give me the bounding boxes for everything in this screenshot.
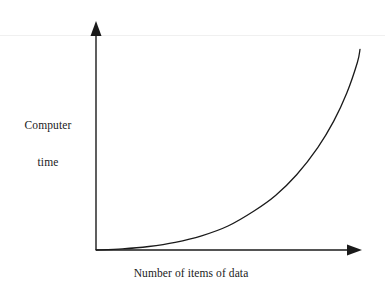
figure-root: Computer time Number of items of data xyxy=(0,0,385,297)
arrow-right-icon xyxy=(347,245,362,256)
x-axis-label: Number of items of data xyxy=(96,267,286,279)
exponential-growth-curve xyxy=(96,49,360,250)
y-axis-label-line-2: time xyxy=(6,156,90,168)
y-axis-label: Computer time xyxy=(6,94,90,193)
y-axis-label-line-1: Computer xyxy=(6,119,90,131)
arrow-up-icon xyxy=(91,21,102,36)
